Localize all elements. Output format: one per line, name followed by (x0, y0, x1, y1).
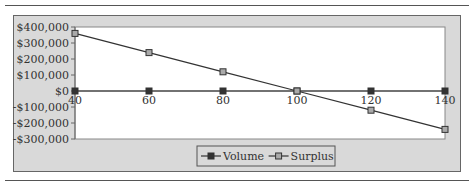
data-point-surplus (368, 107, 374, 113)
data-point-surplus (146, 50, 152, 56)
data-point-surplus (294, 88, 300, 94)
x-tick-label: 100 (287, 94, 308, 107)
hollow-square-marker-icon (276, 153, 282, 159)
legend-label-volume: Volume (222, 150, 264, 163)
y-tick-label: $200,000 (17, 53, 70, 66)
legend-label-surplus: Surplus (291, 150, 335, 163)
line-chart: $400,000$300,000$200,000$100,000$0-$100,… (0, 0, 474, 183)
y-tick-label: -$200,000 (13, 117, 69, 130)
data-point-volume (368, 88, 374, 94)
data-point-volume (146, 88, 152, 94)
y-tick-label: $0 (55, 85, 69, 98)
y-tick-label: $300,000 (17, 37, 70, 50)
x-tick-label: 140 (435, 94, 456, 107)
data-point-surplus (442, 126, 448, 132)
data-point-volume (442, 88, 448, 94)
data-point-volume (220, 88, 226, 94)
x-tick-label: 60 (142, 94, 156, 107)
y-tick-label: -$300,000 (13, 133, 69, 146)
data-point-surplus (220, 69, 226, 75)
data-point-surplus (72, 30, 78, 36)
plot-area (75, 27, 445, 139)
filled-square-marker-icon (208, 153, 214, 159)
x-tick-label: 40 (68, 94, 82, 107)
legend: VolumeSurplus (197, 146, 335, 166)
y-tick-label: $400,000 (17, 21, 70, 34)
y-tick-label: $100,000 (17, 69, 70, 82)
y-tick-label: -$100,000 (13, 101, 69, 114)
x-tick-label: 80 (216, 94, 230, 107)
bottom-rule (5, 180, 469, 181)
x-tick-label: 120 (361, 94, 382, 107)
data-point-volume (72, 88, 78, 94)
